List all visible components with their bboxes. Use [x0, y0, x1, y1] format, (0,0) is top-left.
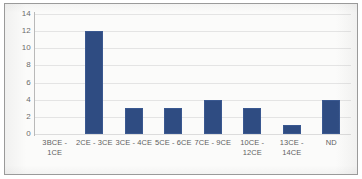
- bar-slot: [312, 14, 352, 134]
- bar-slot: [193, 14, 233, 134]
- bar: [243, 108, 261, 134]
- bar: [164, 108, 182, 134]
- x-axis-tick-label: 7CE - 9CE: [193, 138, 233, 158]
- bar: [322, 100, 340, 134]
- x-axis-tick-label: 2CE - 3CE: [75, 138, 115, 158]
- bar: [85, 31, 103, 134]
- x-axis-tick-label: 10CE - 12CE: [233, 138, 273, 158]
- bar-slot: [233, 14, 273, 134]
- x-axis-tick-label: 5CE - 6CE: [154, 138, 194, 158]
- bar-slot: [75, 14, 115, 134]
- bar-chart: 02468101214 3BCE - 1CE2CE - 3CE3CE - 4CE…: [5, 4, 357, 174]
- y-axis-tick-label: 0: [11, 130, 31, 138]
- y-axis-tick-label: 2: [11, 113, 31, 121]
- y-axis-tick-labels: 02468101214: [11, 14, 31, 134]
- y-axis-tick-label: 10: [11, 44, 31, 52]
- gridline: [35, 134, 351, 135]
- x-axis-tick-labels: 3BCE - 1CE2CE - 3CE3CE - 4CE5CE - 6CE7CE…: [35, 138, 351, 158]
- x-axis-tick-label: 3BCE - 1CE: [35, 138, 75, 158]
- bar-slot: [272, 14, 312, 134]
- bar-slot: [35, 14, 75, 134]
- bar-slot: [154, 14, 194, 134]
- y-axis-tick-label: 12: [11, 27, 31, 35]
- x-axis-tick-label: ND: [312, 138, 352, 158]
- bar-slot: [114, 14, 154, 134]
- chart-frame: 02468101214 3BCE - 1CE2CE - 3CE3CE - 4CE…: [4, 3, 358, 175]
- y-axis-tick-label: 6: [11, 79, 31, 87]
- bar: [204, 100, 222, 134]
- bar: [283, 125, 301, 134]
- bar-series: [35, 14, 351, 134]
- plot-area: [35, 14, 351, 134]
- x-axis-tick-label: 3CE - 4CE: [114, 138, 154, 158]
- bar: [125, 108, 143, 134]
- x-axis-tick-label: 13CE - 14CE: [272, 138, 312, 158]
- y-axis-tick-label: 4: [11, 96, 31, 104]
- y-axis-tick-label: 8: [11, 61, 31, 69]
- y-axis-tick-label: 14: [11, 10, 31, 18]
